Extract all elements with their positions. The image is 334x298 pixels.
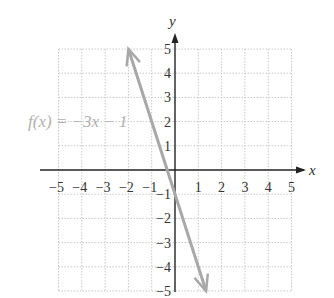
x-tick-label: 1: [195, 180, 202, 195]
x-tick-label: 2: [218, 180, 225, 195]
x-tick-label: −1: [142, 180, 157, 195]
y-tick-label: −2: [156, 211, 171, 226]
x-axis-label: x: [308, 162, 316, 178]
x-tick-label: 4: [265, 180, 272, 195]
y-tick-label: −1: [156, 187, 171, 202]
y-axis-label: y: [167, 13, 176, 29]
y-tick-label: 1: [164, 139, 171, 154]
x-tick-label: −2: [119, 180, 134, 195]
x-tick-label: −3: [96, 180, 111, 195]
y-tick-label: 2: [164, 115, 171, 130]
y-tick-label: 3: [164, 90, 171, 105]
y-tick-label: −3: [156, 236, 171, 251]
y-axis-arrow-icon: [172, 33, 179, 43]
x-tick-label: −5: [49, 180, 64, 195]
y-tick-label: 5: [164, 42, 171, 57]
x-tick-label: −4: [72, 180, 87, 195]
y-tick-label: −4: [156, 260, 171, 275]
x-tick-label: 5: [288, 180, 295, 195]
y-tick-label: −5: [156, 284, 171, 298]
function-label: f(x) = −3x − 1: [28, 112, 128, 131]
x-tick-label: 3: [241, 180, 248, 195]
y-tick-label: 4: [164, 66, 171, 81]
x-axis-arrow-icon: [296, 167, 306, 174]
coordinate-plane: x y −5−4−3−2−11234554321−1−2−3−4−5 f(x) …: [0, 0, 334, 298]
